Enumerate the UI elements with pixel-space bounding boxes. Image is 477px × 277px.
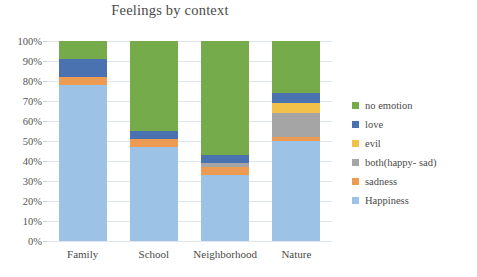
bar-segment[interactable] [59, 85, 107, 241]
bar-segment[interactable] [272, 93, 320, 103]
legend-swatch-icon [352, 197, 359, 204]
y-axis-tick-label: 40% [23, 156, 42, 167]
y-axis-tick-label: 90% [23, 56, 42, 67]
y-axis-tick-label: 60% [23, 116, 42, 127]
legend-item[interactable]: evil [352, 134, 477, 153]
bar-stack[interactable] [201, 41, 249, 241]
bar-stack[interactable] [130, 41, 178, 241]
bar-stack[interactable] [59, 41, 107, 241]
y-axis-tick-label: 20% [23, 196, 42, 207]
bar-segment[interactable] [59, 41, 107, 59]
y-axis-tick-mark [43, 41, 47, 42]
bar-segment[interactable] [130, 139, 178, 147]
chart-container: Feelings by context 0%10%20%30%40%50%60%… [0, 0, 477, 277]
bar-segment[interactable] [272, 137, 320, 141]
bar-stack[interactable] [272, 41, 320, 241]
bar-segment[interactable] [201, 163, 249, 167]
y-axis-tick-mark [43, 61, 47, 62]
y-axis-tick-label: 0% [28, 236, 42, 247]
x-axis-category-label: Neighborhood [190, 248, 261, 260]
x-axis-category-label: Family [47, 248, 118, 260]
bar-segment[interactable] [130, 131, 178, 139]
bar-segment[interactable] [59, 77, 107, 85]
bar-segment[interactable] [201, 167, 249, 175]
y-axis-tick-mark [43, 241, 47, 242]
x-axis-category-label: Nature [261, 248, 332, 260]
bar-segment[interactable] [272, 113, 320, 137]
y-axis-tick-label: 70% [23, 96, 42, 107]
legend-swatch-icon [352, 102, 359, 109]
bar-segment[interactable] [272, 41, 320, 93]
y-axis-tick-label: 10% [23, 216, 42, 227]
y-axis-tick-mark [43, 161, 47, 162]
legend-swatch-icon [352, 140, 359, 147]
legend-label: evil [365, 138, 381, 149]
bar-segment[interactable] [272, 141, 320, 241]
y-axis-tick-mark [43, 141, 47, 142]
y-axis-tick-mark [43, 201, 47, 202]
y-axis-tick-mark [43, 181, 47, 182]
y-axis-tick-label: 80% [23, 76, 42, 87]
legend-swatch-icon [352, 121, 359, 128]
bar-segment[interactable] [272, 103, 320, 113]
y-axis-tick-mark [43, 221, 47, 222]
legend-item[interactable]: Happiness [352, 191, 477, 210]
chart-legend: no emotionloveevilboth(happy- sad)sadnes… [352, 96, 477, 210]
x-axis-category-label: School [118, 248, 189, 260]
y-axis-tick-label: 50% [23, 136, 42, 147]
chart-title: Feelings by context [0, 2, 340, 19]
bar-segment[interactable] [59, 59, 107, 77]
bar-segment[interactable] [201, 41, 249, 155]
legend-label: both(happy- sad) [365, 157, 436, 168]
legend-label: love [365, 119, 383, 130]
y-axis-tick-label: 30% [23, 176, 42, 187]
y-axis-tick-label: 100% [18, 36, 43, 47]
y-axis-tick-mark [43, 81, 47, 82]
legend-item[interactable]: no emotion [352, 96, 477, 115]
legend-item[interactable]: both(happy- sad) [352, 153, 477, 172]
y-axis-tick-mark [43, 101, 47, 102]
plot-area: 0%10%20%30%40%50%60%70%80%90%100% [47, 41, 332, 241]
legend-label: no emotion [365, 100, 413, 111]
bar-segment[interactable] [130, 147, 178, 241]
legend-item[interactable]: love [352, 115, 477, 134]
bar-segment[interactable] [201, 155, 249, 163]
y-axis-tick-mark [43, 121, 47, 122]
gridline [47, 241, 332, 242]
bar-segment[interactable] [201, 175, 249, 241]
legend-item[interactable]: sadness [352, 172, 477, 191]
legend-swatch-icon [352, 159, 359, 166]
legend-label: Happiness [365, 195, 409, 206]
legend-swatch-icon [352, 178, 359, 185]
legend-label: sadness [365, 176, 397, 187]
bar-segment[interactable] [130, 41, 178, 131]
